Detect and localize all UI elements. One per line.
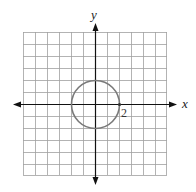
x-axis-right-arrow-icon [169,102,177,108]
y-axis-up-arrow-icon [93,23,99,31]
x-axis-label: x [182,97,188,110]
y-axis-down-arrow-icon [93,177,99,185]
x-axis-left-arrow-icon [13,102,21,108]
y-axis-label: y [91,8,97,21]
point-label-2: 2 [121,107,127,119]
graph-svg [0,0,196,192]
